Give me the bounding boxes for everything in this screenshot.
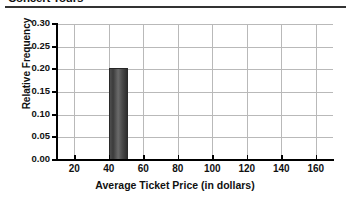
y-axis-tick — [52, 23, 56, 25]
gridline-vertical — [316, 24, 317, 160]
gridline-horizontal — [57, 24, 333, 25]
page-header: Concert Tours — [0, 0, 350, 10]
y-axis-tick-label-wrap: 0.05 — [18, 136, 50, 137]
x-axis-line — [56, 159, 334, 161]
gridline-vertical — [74, 24, 75, 160]
gridline-vertical — [212, 24, 213, 160]
x-axis-tick — [74, 155, 76, 160]
gridline-vertical — [178, 24, 179, 160]
x-axis-tick-label: 160 — [296, 163, 336, 174]
x-axis-tick — [316, 155, 318, 160]
y-axis-tick — [52, 159, 56, 161]
y-axis-tick — [52, 68, 56, 70]
y-axis-tick — [52, 46, 56, 48]
gridline-horizontal — [57, 69, 333, 70]
x-axis-tick — [178, 155, 180, 160]
y-axis-tick — [52, 136, 56, 138]
gridline-vertical — [281, 24, 282, 160]
gridline-vertical — [247, 24, 248, 160]
page-title: Concert Tours — [8, 0, 83, 4]
gridline-horizontal — [57, 92, 333, 93]
y-axis-tick-label: 0.05 — [20, 130, 50, 141]
y-axis-tick — [52, 114, 56, 116]
y-axis-tick-label-wrap: 0.00 — [18, 159, 50, 160]
x-axis-tick — [212, 155, 214, 160]
gridline-horizontal — [57, 115, 333, 116]
title-divider — [5, 6, 346, 8]
gridline-vertical — [143, 24, 144, 160]
gridline-horizontal — [57, 47, 333, 48]
histogram-bar — [109, 68, 128, 160]
plot-area — [57, 24, 333, 160]
x-axis-tick — [109, 155, 111, 160]
y-axis-line — [56, 23, 58, 161]
x-axis-tick — [143, 155, 145, 160]
x-axis-title: Average Ticket Price (in dollars) — [0, 179, 350, 191]
y-axis-tick — [52, 91, 56, 93]
y-axis-tick-label: 0.00 — [20, 153, 50, 164]
y-axis-title: Relative Frequency — [21, 9, 32, 119]
histogram-figure: 0.000.050.100.150.200.250.30 20406080100… — [0, 10, 350, 208]
x-axis-tick — [281, 155, 283, 160]
gridline-horizontal — [57, 137, 333, 138]
x-axis-tick — [247, 155, 249, 160]
